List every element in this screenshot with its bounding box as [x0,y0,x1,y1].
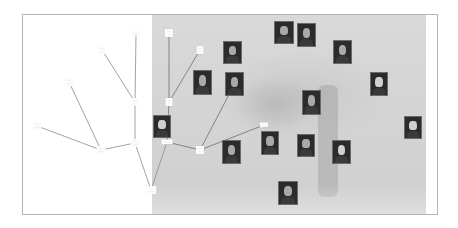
portrait-photo[interactable] [297,134,315,157]
person-label[interactable]: ···· ··· [98,46,105,54]
portrait-photo[interactable] [297,23,316,47]
person-label[interactable]: ······ [132,31,141,36]
portrait-photo[interactable] [302,90,321,115]
connector-line [135,33,136,102]
person-label[interactable]: ····· ··· [131,98,139,106]
portrait-photo[interactable] [225,72,244,96]
connector-lines [0,0,458,228]
portrait-photo[interactable] [332,140,351,164]
person-label[interactable]: ··· ······ [33,122,42,130]
person-label[interactable]: ····· ··· [165,29,173,37]
person-label[interactable]: ···· ······ [97,146,106,154]
portrait-photo[interactable] [261,131,279,155]
portrait-photo[interactable] [274,21,294,44]
portrait-photo[interactable] [404,116,422,139]
portrait-photo[interactable] [278,181,298,205]
person-label[interactable]: ········ [162,140,173,145]
portrait-photo[interactable] [153,115,171,138]
person-label[interactable]: ····· ··· [196,146,204,154]
person-label[interactable]: ···· ······ [131,139,140,147]
person-label[interactable]: ···· ······ [65,78,74,86]
portrait-photo[interactable] [223,41,242,64]
person-label[interactable]: ···· ··· [165,98,172,106]
connector-line [151,142,167,190]
portrait-photo[interactable] [370,72,388,96]
portrait-photo[interactable] [193,70,212,95]
connector-line [102,50,135,102]
connector-line [135,143,151,190]
person-label[interactable]: ···· ··· [196,46,203,54]
portrait-photo[interactable] [222,140,241,164]
person-label[interactable]: ····· [260,123,268,128]
person-label[interactable]: ··· ······· [146,186,156,194]
portrait-photo[interactable] [333,40,352,64]
